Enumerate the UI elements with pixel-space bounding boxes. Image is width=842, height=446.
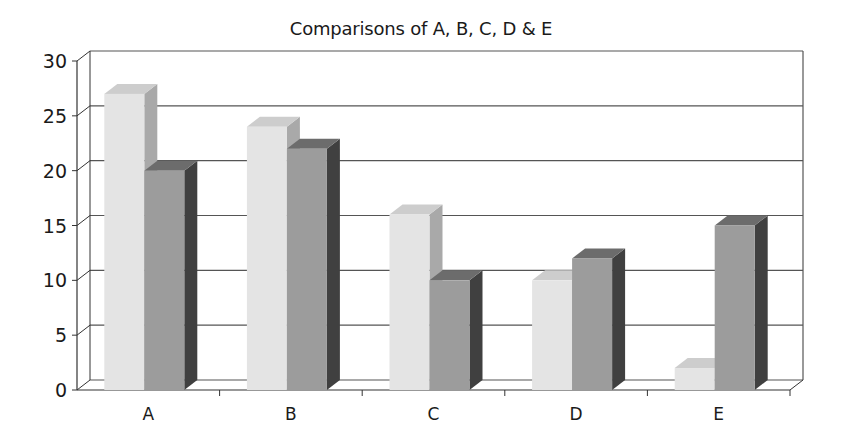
y-tick-label: 10 [43, 269, 67, 291]
bar-D-series2 [572, 248, 625, 390]
bar-side-face [470, 270, 483, 390]
x-tick-label: E [713, 404, 724, 424]
bar-front-face [247, 127, 287, 390]
gridline-diagonal [77, 380, 90, 390]
bar-front-face [715, 226, 755, 391]
bar-front-face [675, 368, 715, 390]
bar-front-face [390, 215, 430, 390]
x-tick-label: A [142, 404, 154, 424]
chart-container: Comparisons of A, B, C, D & E 0510152025… [0, 0, 842, 446]
x-tick-label: C [428, 404, 440, 424]
bar-side-face [184, 161, 197, 390]
y-tick-label: 30 [43, 50, 67, 72]
bar-side-face [327, 139, 340, 390]
bar-front-face [144, 171, 184, 390]
bars [104, 84, 767, 390]
y-tick-label: 25 [43, 105, 67, 127]
bar-C-series2 [430, 270, 483, 390]
bar-side-face [755, 216, 768, 391]
y-tick-label: 15 [43, 215, 67, 237]
gridline-diagonal [77, 161, 90, 171]
bar-E-series2 [715, 216, 768, 391]
bar-front-face [532, 280, 572, 390]
gridline-diagonal [77, 106, 90, 116]
bar-front-face [287, 149, 327, 390]
y-tick-label: 20 [43, 160, 67, 182]
bar-side-face [612, 248, 625, 390]
bar-front-face [430, 280, 470, 390]
y-tick-label: 0 [55, 379, 67, 401]
gridline-diagonal [77, 325, 90, 335]
bar-chart-3d: 051015202530ABCDE [0, 0, 842, 446]
y-tick-label: 5 [55, 324, 67, 346]
gridline-diagonal [77, 216, 90, 226]
bar-front-face [104, 94, 144, 390]
bar-B-series2 [287, 139, 340, 390]
bar-A-series2 [144, 161, 197, 390]
gridline-diagonal [77, 270, 90, 280]
x-tick-label: D [570, 404, 583, 424]
x-tick-label: B [285, 404, 297, 424]
floor-right-edge [790, 380, 803, 390]
gridline-diagonal [77, 51, 90, 61]
bar-front-face [572, 258, 612, 390]
